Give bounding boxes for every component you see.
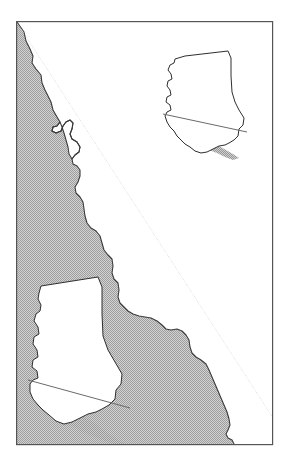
map-figure — [0, 0, 285, 471]
map-content — [16, 21, 273, 446]
map-canvas — [0, 0, 285, 471]
